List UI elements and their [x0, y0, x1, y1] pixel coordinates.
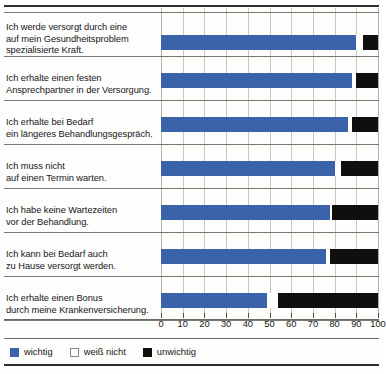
category-label-line: Ich kann bei Bedarf auch — [6, 249, 158, 261]
bar-segment-wichtig — [161, 161, 335, 176]
x-tick-100 — [378, 313, 379, 318]
bar-row — [161, 249, 378, 264]
x-tick-label-70: 70 — [308, 319, 318, 330]
category-label: Ich erhalte einen Bonusdurch meine Krank… — [6, 293, 158, 316]
category-separator — [4, 276, 379, 277]
x-tick-label-10: 10 — [178, 319, 188, 330]
figure-top-rule — [4, 5, 379, 7]
category-label: Ich habe keine Wartezeitenvor der Behand… — [6, 205, 158, 228]
legend-swatch-icon — [143, 348, 152, 357]
legend-label: weiß nicht — [84, 347, 126, 357]
bar-row — [161, 73, 378, 88]
x-tick-50 — [270, 313, 271, 318]
bar-segment-unwichtig — [352, 117, 378, 132]
bar-row — [161, 117, 378, 132]
category-label-line: auf mein Gesundheitsproblem — [6, 34, 158, 46]
figure-bottom-rule — [4, 364, 379, 366]
x-tick-label-60: 60 — [286, 319, 296, 330]
x-tick-label-20: 20 — [199, 319, 209, 330]
x-tick-label-100: 100 — [370, 319, 386, 330]
x-tick-label-40: 40 — [243, 319, 253, 330]
category-label-line: Ich erhalte einen festen — [6, 73, 158, 85]
x-axis-tick-labels: 0102030405060708090100 — [0, 319, 383, 333]
bar-row — [161, 293, 378, 308]
category-label-line: Ansprechpartner in der Versorgung. — [6, 85, 158, 97]
category-separator — [4, 232, 379, 233]
legend-item[interactable]: weiß nicht — [70, 347, 126, 357]
legend-item[interactable]: wichtig — [10, 347, 53, 357]
x-tick-label-90: 90 — [351, 319, 361, 330]
x-tick-40 — [248, 313, 249, 318]
legend-item[interactable]: unwichtig — [143, 347, 196, 357]
bar-segment-unwichtig — [356, 73, 378, 88]
bar-segment-unwichtig — [330, 249, 378, 264]
category-label: Ich erhalte einen festenAnsprechpartner … — [6, 73, 158, 96]
bar-segment-wichtig — [161, 293, 267, 308]
category-label: Ich erhalte bei Bedarfein längeres Behan… — [6, 117, 158, 140]
bar-segment-wichtig — [161, 117, 348, 132]
bar-row — [161, 205, 378, 220]
x-tick-label-50: 50 — [264, 319, 274, 330]
category-label: Ich werde versorgt durch eineauf mein Ge… — [6, 22, 158, 57]
bar-segment-wichtig — [161, 205, 330, 220]
bar-segment-unwichtig — [341, 161, 378, 176]
category-separator — [4, 188, 379, 189]
clipped-caption — [8, 367, 308, 374]
category-label-line: zu Hause versorgt werden. — [6, 261, 158, 273]
bar-segment-wichtig — [161, 35, 356, 50]
category-label-line: ein längeres Behandlungsgespräch. — [6, 129, 158, 141]
x-tick-label-0: 0 — [158, 319, 163, 330]
category-label-line: vor der Behandlung. — [6, 217, 158, 229]
x-tick-30 — [226, 313, 227, 318]
bar-row — [161, 35, 378, 50]
bar-segment-wichtig — [161, 249, 326, 264]
x-tick-0 — [161, 313, 162, 318]
legend-swatch-icon — [70, 348, 79, 357]
x-tick-20 — [204, 313, 205, 318]
x-tick-60 — [291, 313, 292, 318]
x-tick-label-30: 30 — [221, 319, 231, 330]
legend-swatch-icon — [10, 348, 19, 357]
category-separator — [4, 56, 379, 57]
category-separator — [4, 12, 379, 13]
x-tick-10 — [183, 313, 184, 318]
x-tick-label-80: 80 — [329, 319, 339, 330]
category-label-line: durch meine Krankenversicherung. — [6, 305, 158, 317]
bar-segment-weiss — [267, 293, 278, 308]
bar-segment-wichtig — [161, 73, 352, 88]
legend-label: wichtig — [24, 347, 53, 357]
category-label-line: Ich muss nicht — [6, 161, 158, 173]
category-label-line: Ich habe keine Wartezeiten — [6, 205, 158, 217]
axis-rule — [4, 319, 379, 320]
bar-row — [161, 161, 378, 176]
category-separator — [4, 144, 379, 145]
category-label: Ich kann bei Bedarf auchzu Hause versorg… — [6, 249, 158, 272]
x-tick-80 — [335, 313, 336, 318]
bar-segment-weiss — [335, 161, 342, 176]
category-label-line: Ich erhalte einen Bonus — [6, 293, 158, 305]
bar-segment-unwichtig — [332, 205, 378, 220]
bar-segment-unwichtig — [363, 35, 378, 50]
bar-segment-unwichtig — [278, 293, 378, 308]
x-tick-70 — [313, 313, 314, 318]
category-label: Ich muss nichtauf einen Termin warten. — [6, 161, 158, 184]
category-label-line: auf einen Termin warten. — [6, 173, 158, 185]
category-rows: Ich werde versorgt durch eineauf mein Ge… — [4, 8, 379, 313]
legend-label: unwichtig — [157, 347, 196, 357]
category-label-line: Ich werde versorgt durch eine — [6, 22, 158, 34]
chart-legend: wichtigweiß nichtunwichtig — [10, 345, 213, 359]
category-separator — [4, 100, 379, 101]
category-label-line: Ich erhalte bei Bedarf — [6, 117, 158, 129]
legend-top-rule — [4, 338, 379, 339]
x-tick-90 — [356, 313, 357, 318]
